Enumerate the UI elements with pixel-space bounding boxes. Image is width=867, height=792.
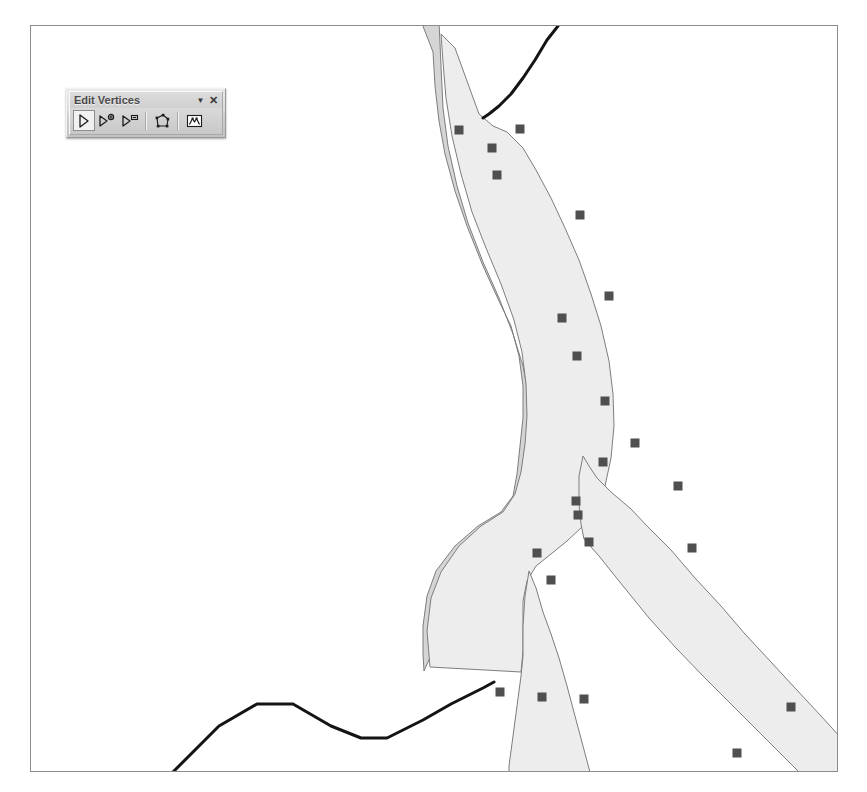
- vertex-23[interactable]: [787, 703, 796, 712]
- toolbar-separator: [145, 112, 147, 130]
- add-vertex-tool[interactable]: [96, 110, 118, 131]
- vertex-15[interactable]: [533, 549, 542, 558]
- polygon-vertices-icon: [154, 113, 171, 129]
- chevron-down-icon[interactable]: ▼: [194, 94, 207, 107]
- vertex-02[interactable]: [488, 144, 497, 153]
- sketch-properties-icon: [186, 113, 203, 129]
- vertex-13[interactable]: [572, 497, 581, 506]
- road-line-north: [483, 26, 558, 118]
- toolbar-button-row: [70, 108, 222, 134]
- toolbar-separator-2: [177, 112, 179, 130]
- vertex-14[interactable]: [574, 511, 583, 520]
- vertex-11[interactable]: [599, 458, 608, 467]
- vertex-19[interactable]: [496, 688, 505, 697]
- road-line: [151, 682, 494, 771]
- toolbar-title: Edit Vertices: [74, 92, 194, 108]
- arrow-pointer-icon: [76, 113, 92, 129]
- vertex-17[interactable]: [688, 544, 697, 553]
- vertex-16[interactable]: [585, 538, 594, 547]
- toolbar-inner-frame: Edit Vertices ▼ ✕: [69, 91, 223, 135]
- vertex-07[interactable]: [605, 292, 614, 301]
- vertex-09[interactable]: [601, 397, 610, 406]
- vertex-21[interactable]: [580, 695, 589, 704]
- river-branch-southeast: [579, 456, 837, 771]
- modify-sketch-vertices-tool[interactable]: [73, 110, 95, 131]
- vertex-22[interactable]: [733, 749, 742, 758]
- sketch-properties-tool[interactable]: [183, 110, 205, 131]
- vertex-18[interactable]: [547, 576, 556, 585]
- vertex-04[interactable]: [493, 171, 502, 180]
- vertex-08[interactable]: [573, 352, 582, 361]
- vertex-12[interactable]: [674, 482, 683, 491]
- vertex-20[interactable]: [538, 693, 547, 702]
- close-icon[interactable]: ✕: [207, 94, 220, 107]
- vertex-01[interactable]: [455, 126, 464, 135]
- continue-feature-tool[interactable]: [151, 110, 173, 131]
- edit-vertices-toolbar[interactable]: Edit Vertices ▼ ✕: [66, 88, 226, 138]
- vertex-06[interactable]: [558, 314, 567, 323]
- toolbar-title-bar[interactable]: Edit Vertices ▼ ✕: [70, 92, 222, 108]
- delete-vertex-tool[interactable]: [119, 110, 141, 131]
- vertex-10[interactable]: [631, 439, 640, 448]
- vertex-05[interactable]: [576, 211, 585, 220]
- vertex-03[interactable]: [516, 125, 525, 134]
- arrow-minus-icon: [121, 113, 139, 129]
- arrow-plus-icon: [98, 113, 116, 129]
